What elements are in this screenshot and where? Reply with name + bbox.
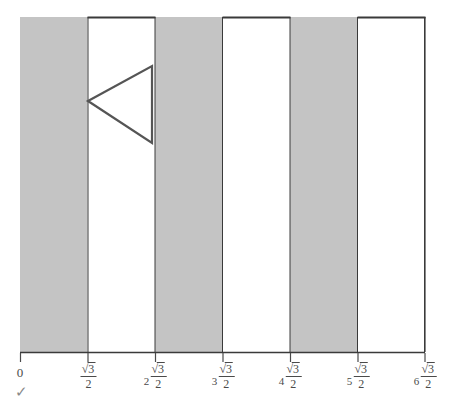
plot-frame: [88, 17, 426, 352]
bar-chart-plot: [0, 0, 450, 407]
bar-2: [155, 17, 223, 352]
bar-4: [290, 17, 358, 352]
bar-0: [20, 17, 88, 352]
figure-container: 0 ✓ √3 2 2 √3 2 3: [0, 0, 450, 407]
triangle-marker: [88, 66, 152, 143]
bar-group: [20, 17, 358, 352]
x-axis-ticks: [21, 353, 426, 362]
